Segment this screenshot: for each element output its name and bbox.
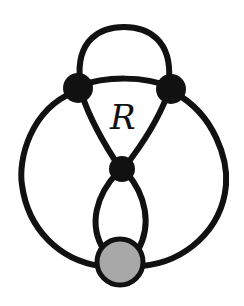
graph-diagram: R — [0, 0, 244, 306]
vertex-bottom-special — [97, 239, 143, 285]
vertex-right — [156, 74, 186, 104]
vertex-left — [63, 73, 93, 103]
region-label: R — [109, 97, 136, 137]
vertex-middle — [109, 156, 135, 182]
edge-top-arc — [80, 27, 170, 80]
